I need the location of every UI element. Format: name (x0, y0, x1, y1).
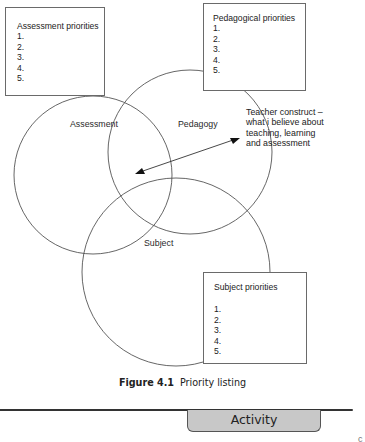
list-item: 2. (214, 315, 306, 325)
list-item: 5. (214, 346, 306, 356)
list-item: 1. (214, 304, 306, 314)
teacher-construct-annotation: Teacher construct – what i believe about… (246, 107, 356, 148)
page-edge-mark: c (358, 434, 363, 442)
figure-number: Figure 4.1 (119, 377, 174, 388)
subject-priorities-title: Subject priorities (214, 282, 306, 292)
assessment-priorities-title: Assessment priorities (17, 21, 104, 31)
list-item: 4. (213, 55, 305, 65)
list-item: 2. (17, 42, 104, 52)
list-item: 4. (17, 63, 104, 73)
list-item: 3. (214, 325, 306, 335)
pedagogy-circle (108, 70, 272, 234)
subject-priorities-list: 1. 2. 3. 4. 5. (214, 304, 306, 356)
construct-line: teaching, learning (246, 128, 356, 138)
assessment-priorities-list: 1. 2. 3. 4. 5. (17, 31, 104, 83)
list-item: 1. (213, 23, 305, 33)
construct-line: what i believe about (246, 117, 356, 127)
list-item: 2. (213, 34, 305, 44)
figure-title: Priority listing (180, 377, 246, 388)
construct-line: Teacher construct – (246, 107, 356, 117)
figure-caption: Figure 4.1Priority listing (0, 377, 365, 388)
construct-line: and assessment (246, 138, 356, 148)
list-item: 4. (214, 336, 306, 346)
pedagogy-circle-label: Pedagogy (178, 119, 218, 129)
subject-priorities-box: Subject priorities 1. 2. 3. 4. 5. (203, 272, 307, 364)
list-item: 3. (17, 52, 104, 62)
pedagogical-priorities-box: Pedagogical priorities 1. 2. 3. 4. 5. (203, 3, 306, 91)
list-item: 1. (17, 31, 104, 41)
pedagogical-priorities-title: Pedagogical priorities (213, 13, 305, 23)
activity-heading-tab: Activity (187, 410, 321, 432)
assessment-circle-label: Assessment (70, 119, 118, 129)
list-item: 3. (213, 44, 305, 54)
list-item: 5. (213, 65, 305, 75)
subject-circle-label: Subject (144, 238, 173, 248)
list-item: 5. (17, 73, 104, 83)
assessment-priorities-box: Assessment priorities 1. 2. 3. 4. 5. (5, 7, 105, 96)
double-arrow-icon (135, 138, 240, 174)
pedagogical-priorities-list: 1. 2. 3. 4. 5. (213, 23, 305, 75)
